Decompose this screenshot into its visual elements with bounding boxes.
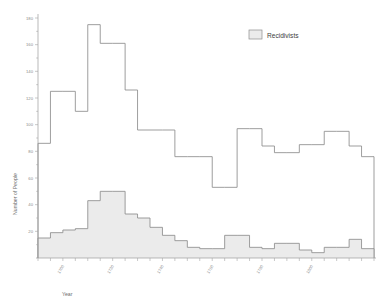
y-tick-label: 100 [26,122,34,127]
y-tick-label: 140 [26,69,34,74]
x-axis-title: Year [62,291,73,297]
legend: Recidivists [249,30,299,39]
x-axis: 170017201740176017801800 [36,258,376,275]
y-tick-label: 120 [26,96,34,101]
plot-area [38,25,374,258]
y-axis: 20406080100120140160180 [26,14,38,258]
y-tick-label: 20 [28,229,33,234]
chart-container: 20406080100120140160180 1700172017401760… [0,0,386,308]
x-tick-label: 1720 [106,263,115,274]
y-axis-ticks: 20406080100120140160180 [26,16,38,245]
y-axis-title: Number of People [12,173,18,215]
y-tick-label: 180 [26,16,34,21]
y-tick-label: 60 [28,176,33,181]
x-tick-label: 1760 [206,263,215,274]
legend-swatch-recidivists [249,30,262,39]
legend-label-recidivists: Recidivists [267,32,299,39]
y-tick-label: 160 [26,42,34,47]
y-tick-label: 40 [28,202,33,207]
x-axis-ticks: 170017201740176017801800 [38,258,374,275]
x-tick-label: 1740 [156,263,165,274]
recidivists-step-chart: 20406080100120140160180 1700172017401760… [0,0,386,308]
series-recidivists-area [38,191,374,258]
x-tick-label: 1780 [255,263,264,274]
x-tick-label: 1700 [56,263,65,274]
y-tick-label: 80 [28,149,33,154]
x-tick-label: 1800 [305,263,314,274]
